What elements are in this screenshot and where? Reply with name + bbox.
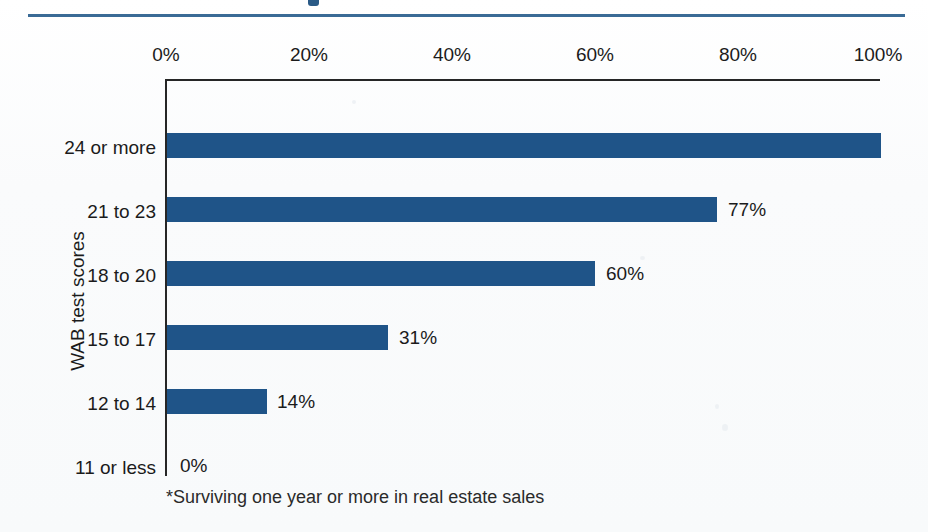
bar-value-label: 77% — [728, 199, 766, 221]
bar — [167, 325, 388, 350]
bar-value-label: 0% — [180, 455, 207, 477]
chart-footnote: *Surviving one year or more in real esta… — [166, 487, 544, 508]
bar-row: 18 to 20 60% — [0, 248, 928, 312]
x-tick-label-100: 100% — [854, 44, 903, 66]
bar-value-label: 31% — [399, 327, 437, 349]
scan-speckle — [715, 404, 719, 409]
bar-chart: 0% 20% 40% 60% 80% 100% WAB test scores … — [0, 0, 928, 532]
category-label: 15 to 17 — [87, 329, 156, 351]
bar — [167, 133, 881, 158]
bar — [167, 197, 717, 222]
scan-speckle — [640, 256, 645, 260]
bar-row: 24 or more — [0, 120, 928, 184]
scan-speckle — [352, 100, 356, 104]
bar-row: 21 to 23 77% — [0, 184, 928, 248]
category-label: 18 to 20 — [87, 265, 156, 287]
bar-row: 12 to 14 14% — [0, 376, 928, 440]
plot-top-axis-line — [166, 79, 880, 81]
category-label: 11 or less — [75, 457, 156, 479]
bar — [167, 389, 267, 414]
x-tick-label-60: 60% — [576, 44, 614, 66]
bar-value-label: 60% — [606, 263, 644, 285]
category-label: 21 to 23 — [87, 201, 156, 223]
scan-speckle — [722, 424, 728, 431]
category-label: 12 to 14 — [87, 393, 156, 415]
x-tick-label-40: 40% — [433, 44, 471, 66]
x-tick-label-0: 0% — [152, 44, 179, 66]
x-tick-label-20: 20% — [290, 44, 328, 66]
category-label: 24 or more — [64, 137, 156, 159]
bar — [167, 261, 595, 286]
bar-value-label: 14% — [277, 391, 315, 413]
bar-row: 15 to 17 31% — [0, 312, 928, 376]
x-tick-label-80: 80% — [719, 44, 757, 66]
